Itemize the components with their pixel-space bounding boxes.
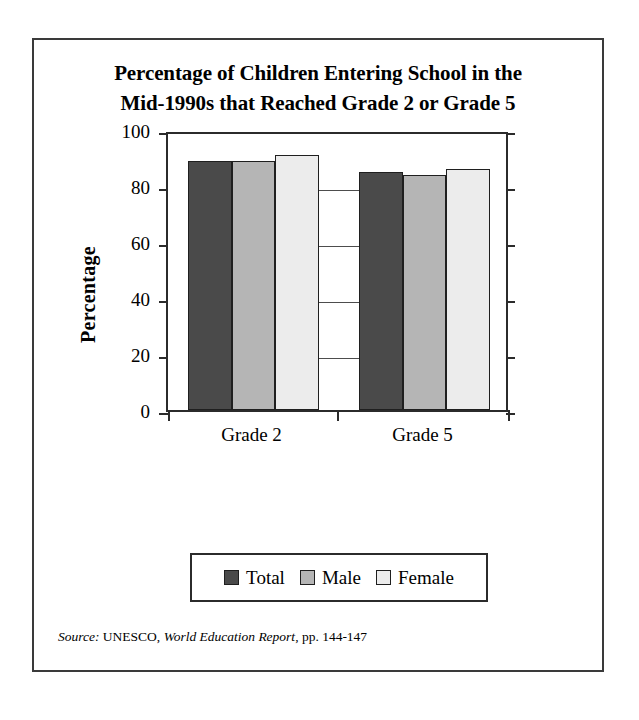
legend-swatch-male-icon <box>300 570 315 585</box>
chart-legend: TotalMaleFemale <box>190 553 488 602</box>
axis-tick-60 <box>159 245 168 247</box>
y-tick-label-100: 100 <box>122 121 151 143</box>
bars-layer <box>168 134 506 410</box>
source-note: Source: UNESCO, World Education Report, … <box>58 629 367 645</box>
y-tick-label-60: 60 <box>131 233 150 255</box>
y-tick-label-40: 40 <box>131 289 150 311</box>
y-axis-title: Percentage <box>76 184 102 404</box>
axis-tick-80 <box>506 189 515 191</box>
y-tick-label-0: 0 <box>141 401 151 423</box>
legend-label-total: Total <box>246 567 285 589</box>
bar-grade-5-male <box>403 175 447 410</box>
legend-item-male: Male <box>300 567 361 589</box>
chart-title-line-2: Mid-1990s that Reached Grade 2 or Grade … <box>58 88 578 118</box>
x-axis-edge-tick-1 <box>508 410 510 421</box>
x-axis-edge-tick-0 <box>168 410 170 421</box>
source-publisher: UNESCO, <box>103 629 160 644</box>
y-tick-label-20: 20 <box>131 345 150 367</box>
chart-title: Percentage of Children Entering School i… <box>34 58 602 118</box>
legend-item-total: Total <box>224 567 285 589</box>
category-separator-tick <box>337 410 339 421</box>
y-axis-tick-labels: 020406080100 <box>100 132 158 412</box>
bar-grade-5-female <box>446 169 490 410</box>
x-axis-category-labels: Grade 2Grade 5 <box>166 424 508 446</box>
source-pages: , pp. 144-147 <box>295 629 367 644</box>
plot-area <box>166 132 508 412</box>
legend-swatch-female-icon <box>376 570 391 585</box>
axis-tick-100 <box>506 133 515 135</box>
y-axis-title-text: Percentage <box>78 245 101 342</box>
bar-grade-2-male <box>232 161 276 410</box>
chart-title-line-1: Percentage of Children Entering School i… <box>58 58 578 88</box>
gridline-20 <box>319 358 358 359</box>
axis-tick-20 <box>506 357 515 359</box>
source-label: Source: <box>58 629 99 644</box>
bar-grade-2-female <box>275 155 319 410</box>
legend-label-female: Female <box>398 567 454 589</box>
axis-tick-0 <box>159 413 168 415</box>
axis-tick-40 <box>506 301 515 303</box>
axis-tick-80 <box>159 189 168 191</box>
legend-item-female: Female <box>376 567 454 589</box>
axis-tick-60 <box>506 245 515 247</box>
gridline-80 <box>319 190 358 191</box>
axis-tick-100 <box>159 133 168 135</box>
gridline-60 <box>319 246 358 247</box>
plot-region: Percentage 020406080100 Grade 2Grade 5 <box>70 132 570 492</box>
axis-tick-20 <box>159 357 168 359</box>
x-axis-label-grade-5: Grade 5 <box>337 424 508 446</box>
y-tick-label-80: 80 <box>131 177 150 199</box>
bar-grade-5-total <box>359 172 403 410</box>
bar-grade-2-total <box>188 161 232 410</box>
axis-tick-40 <box>159 301 168 303</box>
source-publication: World Education Report <box>164 629 296 644</box>
legend-label-male: Male <box>322 567 361 589</box>
figure-frame: Percentage of Children Entering School i… <box>32 38 604 672</box>
gridline-40 <box>319 302 358 303</box>
x-axis-label-grade-2: Grade 2 <box>166 424 337 446</box>
legend-swatch-total-icon <box>224 570 239 585</box>
